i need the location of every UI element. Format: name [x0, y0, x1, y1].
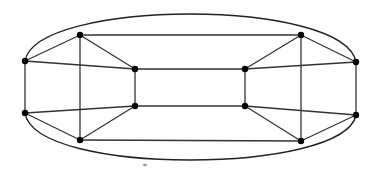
vertex-IR1	[242, 66, 248, 72]
vertex-L1	[22, 58, 28, 64]
edge-BL-BR	[80, 140, 301, 141]
graph-edges	[25, 35, 356, 141]
edge-L1-TL	[25, 35, 80, 61]
edge-TL-IL1	[80, 35, 135, 69]
vertex-R2	[353, 112, 359, 118]
vertex-L2	[22, 110, 28, 116]
vertex-R1	[353, 59, 359, 65]
graph-vertices	[22, 32, 359, 144]
edge-TR-IR1	[245, 35, 301, 69]
edge-L2-BL	[25, 113, 80, 140]
vertex-BL	[77, 137, 83, 143]
graph-diagram	[0, 0, 379, 175]
edge-BL-IL2	[80, 106, 135, 140]
vertex-TR	[298, 32, 304, 38]
vertex-TL	[77, 32, 83, 38]
vertex-BR	[298, 138, 304, 144]
vertex-IR2	[242, 103, 248, 109]
edge-BR-IR2	[245, 106, 301, 141]
vertex-IL1	[132, 66, 138, 72]
stray-marks	[143, 164, 147, 166]
stray-mark	[143, 164, 147, 166]
bottom-arc-curve	[25, 113, 356, 160]
vertex-IL2	[132, 103, 138, 109]
